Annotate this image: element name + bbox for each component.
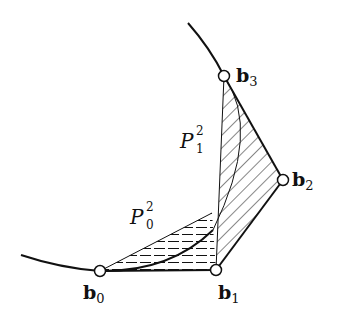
region-p1-hatch bbox=[216, 76, 283, 270]
outer-curve-top bbox=[188, 23, 224, 76]
outer-curve-left bbox=[21, 255, 100, 271]
label-p1-sup: 2 bbox=[196, 124, 204, 138]
point-b3 bbox=[219, 71, 230, 82]
label-b2: b2 bbox=[292, 168, 314, 193]
label-p0: P bbox=[129, 205, 144, 229]
point-b0 bbox=[95, 266, 106, 277]
label-p1-sub: 1 bbox=[196, 142, 204, 156]
point-b1 bbox=[211, 265, 222, 276]
point-b2 bbox=[278, 175, 289, 186]
label-p0-sub: 0 bbox=[146, 218, 154, 232]
label-b3: b3 bbox=[236, 64, 258, 89]
label-b0: b0 bbox=[83, 281, 105, 306]
label-b1: b1 bbox=[218, 281, 240, 306]
label-p0-sup: 2 bbox=[146, 200, 154, 214]
bezier-diagram: b0 b1 b2 b3 P 2 1 P 2 0 bbox=[0, 0, 339, 320]
label-p1: P bbox=[179, 129, 194, 153]
